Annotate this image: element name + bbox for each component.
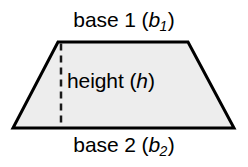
height-close-paren: ) (148, 69, 155, 92)
base2-label: base 2 (b2) (0, 134, 248, 155)
base2-word: base (73, 133, 118, 156)
height-variable: h (136, 69, 148, 92)
base1-number: 1 (124, 8, 136, 31)
base2-variable: b (148, 133, 160, 156)
base1-close-paren: ) (168, 8, 175, 31)
base2-number: 2 (124, 133, 136, 156)
base1-variable: b (148, 8, 160, 31)
height-word: height (67, 69, 124, 92)
height-label: height (h) (67, 70, 155, 91)
base1-subscript: 1 (160, 18, 168, 34)
base1-word: base (73, 8, 118, 31)
base1-label: base 1 (b1) (0, 9, 248, 30)
trapezoid-figure: base 1 (b1) height (h) base 2 (b2) (0, 0, 248, 167)
base2-subscript: 2 (160, 143, 168, 159)
base2-close-paren: ) (168, 133, 175, 156)
